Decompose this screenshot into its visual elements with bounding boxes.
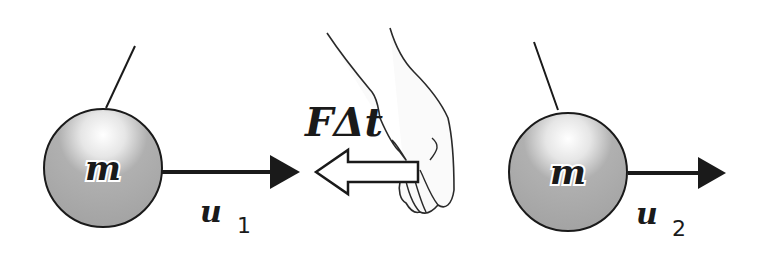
impulse-diagram: m u 1 FΔt m u 2 — [0, 0, 763, 253]
right-arrowhead-icon — [698, 157, 726, 189]
hand-impulse: FΔt — [304, 28, 454, 213]
left-pendulum: m u 1 — [44, 46, 300, 238]
left-string — [106, 46, 135, 108]
left-velocity-subscript: 1 — [237, 213, 251, 238]
diagram-canvas: m u 1 FΔt m u 2 — [0, 0, 763, 253]
left-velocity-label: u — [200, 194, 222, 229]
right-string — [534, 42, 558, 110]
right-velocity-subscript: 2 — [672, 216, 686, 241]
left-mass-label: m — [85, 148, 121, 188]
right-velocity-label: u — [636, 196, 658, 231]
right-pendulum: m u 2 — [509, 42, 726, 241]
right-mass-label: m — [550, 152, 586, 192]
left-arrowhead-icon — [270, 155, 300, 189]
impulse-label: FΔt — [304, 98, 383, 145]
